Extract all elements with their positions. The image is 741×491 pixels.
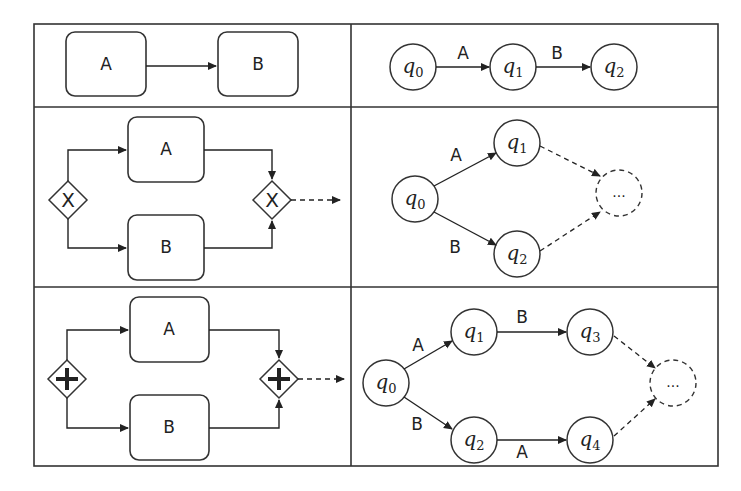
transition-q3-continuation [614,336,655,368]
transition-label-b: B [551,43,563,63]
task-b-label: B [163,417,175,437]
transition-q4-continuation [614,399,655,436]
flow-b-to-join [209,400,279,428]
xor-split-icon: X [61,188,75,212]
row-parallel-automaton: q0 q1 q2 q3 q4 ... A B B A [363,307,696,463]
task-b-label: B [160,237,172,257]
task-a-label: A [163,319,175,339]
flow-a-to-join [209,330,279,358]
row-sequence-bpmn: A B [66,32,298,96]
task-a-label: A [100,54,112,74]
transition-q0-q1 [434,153,496,186]
flow-split-to-b [67,398,128,428]
task-b-label: B [252,54,264,74]
flow-split-to-a [68,150,126,181]
transition-label-b: B [449,237,461,257]
transition-label-b: B [516,307,528,327]
row-parallel-bpmn: A B [48,297,344,460]
continuation-ellipsis: ... [612,184,625,200]
transition-label-a: A [457,43,469,63]
transition-q0-q2 [434,212,496,245]
row-exclusive-automaton: q0 q1 q2 ... A B [392,120,642,277]
transition-label-a: A [412,335,424,355]
transition-label-a: A [450,145,462,165]
xor-join-icon: X [265,188,279,212]
transition-label-b: B [411,414,423,434]
row-sequence-automaton: q0 q1 q2 A B [390,43,637,90]
bpmn-automaton-table: A B q0 q1 q2 A B X A B X q0 [0,0,741,491]
transition-q2-continuation [540,212,600,251]
continuation-ellipsis: ... [666,374,679,390]
transition-q1-continuation [540,146,600,176]
flow-b-to-join [204,221,272,248]
row-exclusive-bpmn: X A B X [49,117,340,280]
task-a-label: A [160,139,172,159]
flow-a-to-join [204,150,272,179]
flow-split-to-a [67,330,128,360]
transition-label-a: A [516,442,528,462]
flow-split-to-b [68,219,126,248]
